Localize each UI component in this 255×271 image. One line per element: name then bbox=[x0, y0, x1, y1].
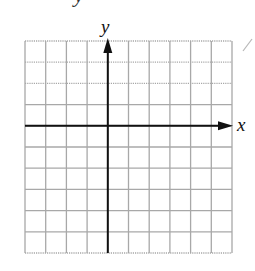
x-axis-label: x bbox=[237, 115, 245, 134]
y-axis-label: y bbox=[101, 17, 109, 36]
grid-lines bbox=[25, 41, 232, 253]
stray-pen-stroke bbox=[243, 39, 252, 51]
y-axis-arrowhead-icon bbox=[103, 38, 112, 53]
x-axis-arrowhead-icon bbox=[218, 121, 233, 130]
coordinate-grid-diagram bbox=[0, 0, 255, 271]
cropped-y-label-fragment: y bbox=[74, 0, 84, 6]
